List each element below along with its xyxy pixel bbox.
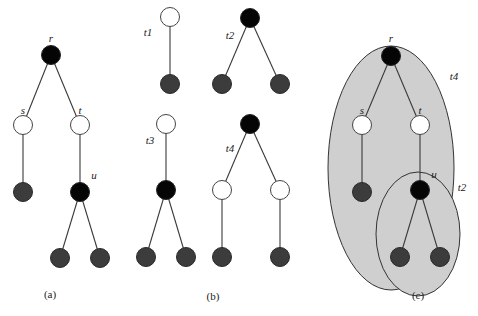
edge-u-leaf2 bbox=[80, 192, 100, 258]
c-label-r: r bbox=[389, 32, 394, 44]
label-t4: t4 bbox=[226, 142, 235, 154]
caption-b: (b) bbox=[207, 290, 220, 303]
node-u-leaf1 bbox=[51, 249, 70, 268]
node-u-leaf2 bbox=[91, 249, 110, 268]
c-node-s bbox=[353, 116, 372, 135]
t1-leaf-node bbox=[161, 75, 180, 94]
t3-leaf1-node bbox=[137, 248, 156, 267]
label-r: r bbox=[49, 32, 54, 44]
c-node-t bbox=[411, 116, 430, 135]
pattern-t4: t4 bbox=[213, 115, 290, 267]
t1-root-node bbox=[161, 8, 180, 27]
node-t bbox=[71, 116, 90, 135]
panel-a-tree: r s t u (a) bbox=[14, 32, 110, 301]
node-s-leaf bbox=[14, 183, 33, 202]
edge-r-t bbox=[51, 55, 80, 125]
label-t1: t1 bbox=[144, 26, 153, 38]
t3-leaf2-node bbox=[177, 248, 196, 267]
node-u bbox=[71, 183, 90, 202]
panel-c-tiling: r s t u t4 t2 (c) bbox=[328, 32, 467, 302]
figure-canvas: r s t u (a) t1 t2 bbox=[0, 0, 478, 316]
pattern-t1: t1 bbox=[144, 8, 180, 94]
c-label-t4: t4 bbox=[450, 70, 459, 82]
t4-root-node bbox=[241, 115, 260, 134]
c-node-u bbox=[411, 181, 430, 200]
c-label-s: s bbox=[360, 104, 364, 116]
t4-leaf2-node bbox=[271, 248, 290, 267]
c-label-t2: t2 bbox=[458, 181, 467, 193]
pattern-t2: t2 bbox=[213, 9, 290, 94]
label-u: u bbox=[91, 169, 97, 181]
t4-white1-node bbox=[213, 181, 232, 200]
c-node-u-leaf1 bbox=[391, 248, 410, 267]
label-s: s bbox=[21, 104, 25, 116]
edge-r-s bbox=[23, 55, 51, 125]
t2-leaf2-node bbox=[271, 75, 290, 94]
tree-tiling-figure: r s t u (a) t1 t2 bbox=[0, 0, 478, 316]
pattern-t3: t3 bbox=[137, 115, 196, 267]
t2-root-node bbox=[241, 9, 260, 28]
c-node-s-leaf bbox=[353, 183, 372, 202]
label-t: t bbox=[78, 104, 82, 116]
c-node-r bbox=[382, 47, 401, 66]
c-label-u: u bbox=[431, 168, 437, 180]
node-r bbox=[42, 46, 61, 65]
panel-b-patterns: t1 t2 t3 bbox=[137, 8, 290, 304]
node-s bbox=[14, 116, 33, 135]
label-t2: t2 bbox=[226, 29, 235, 41]
t4-leaf1-node bbox=[213, 248, 232, 267]
edge-u-leaf1 bbox=[60, 192, 80, 258]
caption-a: (a) bbox=[44, 288, 57, 301]
t3-mid-node bbox=[157, 181, 176, 200]
label-t3: t3 bbox=[146, 134, 155, 146]
caption-c: (c) bbox=[412, 289, 425, 302]
c-node-u-leaf2 bbox=[431, 248, 450, 267]
t3-root-node bbox=[157, 115, 176, 134]
t4-white2-node bbox=[271, 181, 290, 200]
t2-leaf1-node bbox=[213, 75, 232, 94]
